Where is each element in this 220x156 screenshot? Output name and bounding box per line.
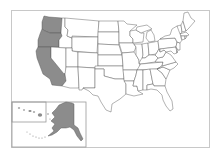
state-kansas — [98, 55, 123, 66]
state-iowa — [119, 43, 136, 53]
state-hawaii — [18, 107, 42, 117]
state-washington — [42, 16, 62, 33]
inset-frame — [12, 102, 86, 147]
state-florida — [147, 84, 173, 111]
state-north-dakota — [98, 21, 119, 32]
us-locator-map — [0, 0, 220, 156]
state-montana — [65, 18, 99, 38]
state-wyoming — [72, 37, 98, 53]
state-new-mexico — [78, 67, 95, 90]
hawaii-inset-frame — [12, 102, 46, 122]
state-nebraska — [98, 44, 122, 55]
alaska-aleutian-islands — [27, 113, 51, 138]
state-rhode-island — [185, 36, 187, 39]
map-svg — [0, 0, 220, 156]
state-south-dakota — [98, 32, 119, 45]
state-alaska — [48, 102, 83, 141]
state-colorado — [78, 52, 98, 68]
